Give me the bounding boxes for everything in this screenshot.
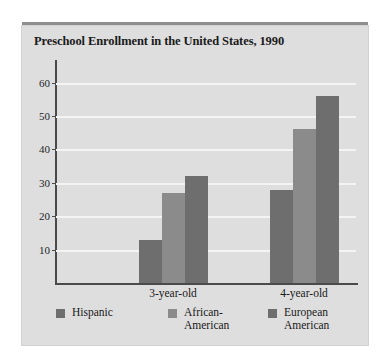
- figure-container: Preschool Enrollment in the United State…: [22, 22, 368, 345]
- x-axis-line: [55, 283, 358, 285]
- legend-label: African- American: [184, 306, 229, 332]
- y-tick-mark: [52, 250, 56, 251]
- y-tick-label: 60: [39, 77, 50, 89]
- bar: [293, 129, 316, 283]
- y-tick-label: 50: [39, 110, 50, 122]
- legend-item[interactable]: Hispanic: [56, 306, 168, 332]
- bar: [139, 240, 162, 283]
- gridline: [56, 116, 356, 118]
- x-axis-label: 4-year-old: [280, 287, 328, 299]
- bar: [162, 193, 185, 283]
- chart-legend: HispanicAfrican- AmericanEuropean Americ…: [56, 306, 356, 332]
- bar: [316, 96, 339, 283]
- bar: [270, 190, 293, 283]
- legend-swatch-icon: [168, 309, 177, 318]
- legend-swatch-icon: [268, 309, 277, 318]
- y-tick-label: 20: [39, 210, 50, 222]
- legend-item[interactable]: African- American: [168, 306, 268, 332]
- legend-label: Hispanic: [72, 306, 113, 319]
- y-tick-label: 30: [39, 177, 50, 189]
- gridline: [56, 83, 356, 85]
- legend-swatch-icon: [56, 309, 65, 318]
- chart-title: Preschool Enrollment in the United State…: [34, 34, 284, 49]
- plot-area: 102030405060 3-year-old4-year-old: [56, 66, 356, 283]
- bar: [185, 176, 208, 283]
- y-tick-mark: [52, 116, 56, 117]
- chart-panel: Preschool Enrollment in the United State…: [22, 26, 368, 345]
- legend-item[interactable]: European American: [268, 306, 356, 332]
- y-tick-mark: [52, 183, 56, 184]
- y-tick-mark: [52, 83, 56, 84]
- y-tick-label: 40: [39, 143, 50, 155]
- legend-label: European American: [284, 306, 329, 332]
- y-tick-mark: [52, 216, 56, 217]
- y-tick-mark: [52, 149, 56, 150]
- x-axis-label: 3-year-old: [149, 287, 197, 299]
- y-tick-label: 10: [39, 244, 50, 256]
